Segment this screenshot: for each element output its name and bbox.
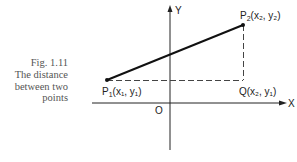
p2-label: P2(x₂, y₂) xyxy=(240,10,281,22)
y-axis-label: Y xyxy=(175,5,182,16)
x-axis-arrow-icon xyxy=(279,101,287,106)
point-p1 xyxy=(105,78,109,82)
y-axis-arrow-icon xyxy=(168,5,173,12)
distance-diagram: Y X O P1(x₁, y₁) P2(x₂, y₂) Q(x₂, y₁) xyxy=(0,0,297,162)
segment-p1-p2 xyxy=(107,25,243,80)
origin-label: O xyxy=(155,105,163,116)
x-axis-label: X xyxy=(288,98,295,109)
figure: Fig. 1.11 The distance between two point… xyxy=(0,0,297,162)
p1-label: P1(x₁, y₁) xyxy=(102,86,142,98)
point-p2 xyxy=(241,23,245,27)
q-label: Q(x₂, y₁) xyxy=(239,86,276,97)
